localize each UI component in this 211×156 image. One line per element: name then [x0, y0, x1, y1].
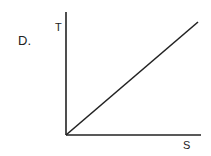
- data-line: [66, 22, 198, 135]
- chart-plot: [0, 0, 211, 156]
